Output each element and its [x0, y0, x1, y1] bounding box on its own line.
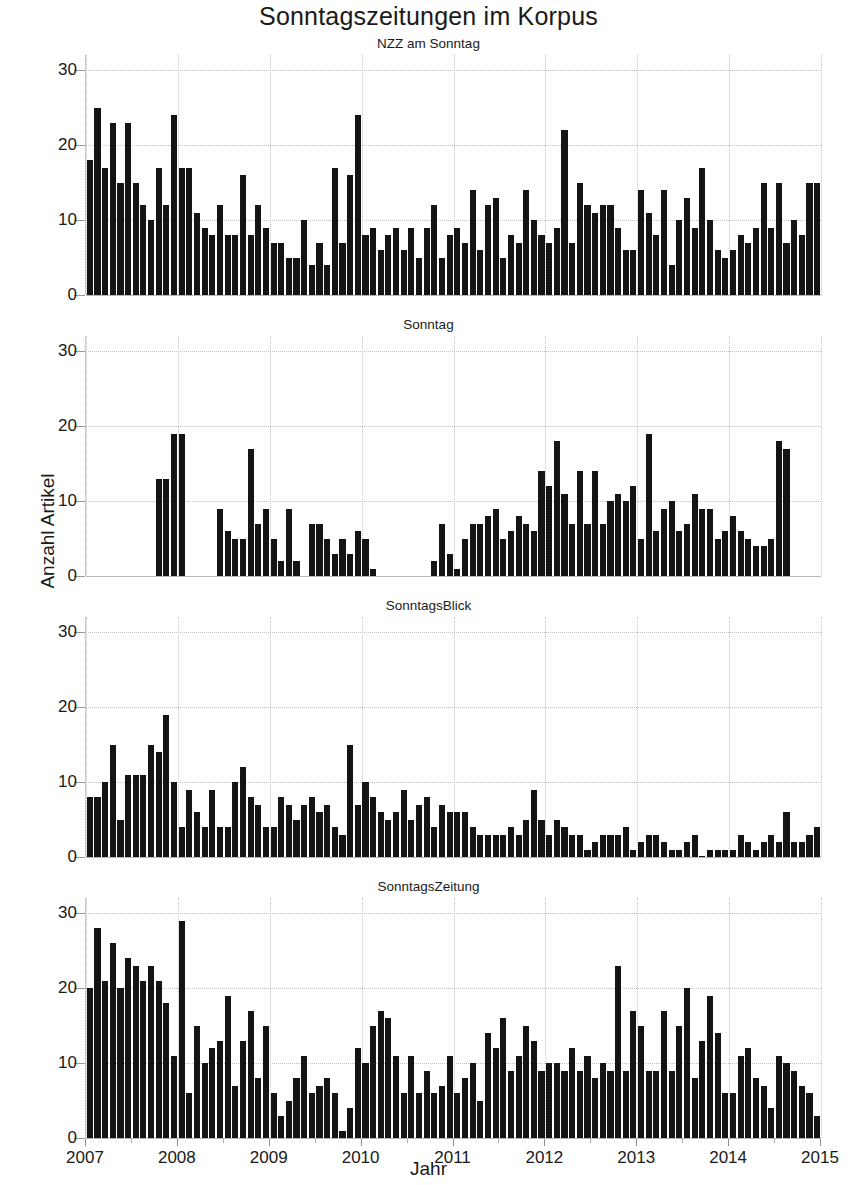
bar [102, 168, 108, 296]
bar [707, 996, 713, 1139]
bar [362, 539, 368, 577]
bar [431, 1093, 437, 1138]
bar [156, 479, 162, 577]
bar [669, 265, 675, 295]
bar [745, 539, 751, 577]
bar [431, 205, 437, 295]
bar [715, 850, 721, 858]
x-tick-minor [774, 1139, 775, 1143]
bar [355, 1048, 361, 1138]
bar [738, 1056, 744, 1139]
bar [324, 805, 330, 858]
bar [485, 516, 491, 576]
bar [316, 812, 322, 857]
bar [202, 1063, 208, 1138]
bar [730, 1093, 736, 1138]
bar [263, 1026, 269, 1139]
bar [646, 1071, 652, 1139]
bar [600, 205, 606, 295]
bar [454, 569, 460, 577]
bar [439, 805, 445, 858]
bar [500, 539, 506, 577]
x-tick-minor [590, 1139, 591, 1143]
bar [761, 1086, 767, 1139]
bar [470, 524, 476, 577]
y-tick-label: 20 [37, 416, 77, 436]
bar [761, 842, 767, 857]
bar [263, 827, 269, 857]
bar [156, 168, 162, 296]
x-tick-mark [544, 1139, 545, 1146]
bar [653, 835, 659, 858]
bar [347, 745, 353, 858]
bar [148, 745, 154, 858]
axis-baseline [86, 576, 821, 577]
bar [638, 190, 644, 295]
x-tick-minor [131, 1139, 132, 1143]
panel-title: SonntagsBlick [0, 598, 857, 613]
bar [125, 958, 131, 1138]
bar [209, 1048, 215, 1138]
bar [240, 767, 246, 857]
bar [615, 494, 621, 577]
bar [814, 183, 820, 296]
bar [271, 243, 277, 296]
bar [309, 265, 315, 295]
bar [347, 175, 353, 295]
y-tick-label: 10 [37, 210, 77, 230]
bar [370, 797, 376, 857]
bar [538, 1071, 544, 1139]
x-tick-mark [85, 1139, 86, 1146]
x-tick-minor [407, 1139, 408, 1143]
bar [783, 243, 789, 296]
bar [538, 471, 544, 576]
bar [171, 434, 177, 577]
bar [286, 1101, 292, 1139]
bar [753, 850, 759, 858]
bar [286, 258, 292, 296]
bar [493, 835, 499, 858]
x-tick-mark [820, 1139, 821, 1146]
bar [385, 235, 391, 295]
bar [240, 175, 246, 295]
bar [607, 1071, 613, 1139]
bar [692, 228, 698, 296]
x-tick-label: 2009 [250, 1148, 288, 1168]
bar [347, 1108, 353, 1138]
bar [140, 981, 146, 1139]
bar [516, 243, 522, 296]
x-tick-label: 2008 [158, 1148, 196, 1168]
bar [271, 827, 277, 857]
x-axis-ticks: 200720082009201020112012201320142015 [85, 1139, 820, 1173]
bar [240, 1041, 246, 1139]
bar [286, 509, 292, 577]
bar [248, 449, 254, 577]
bar [623, 250, 629, 295]
bar [232, 235, 238, 295]
bar [431, 561, 437, 576]
bar [592, 213, 598, 296]
bar [156, 752, 162, 857]
bar [125, 775, 131, 858]
bar [623, 501, 629, 576]
bar [202, 827, 208, 857]
bar [454, 1093, 460, 1138]
bar [133, 775, 139, 858]
bar [630, 850, 636, 858]
bar [738, 531, 744, 576]
bar [531, 790, 537, 858]
bar [232, 539, 238, 577]
bar [684, 988, 690, 1138]
bar [615, 966, 621, 1139]
bar [561, 827, 567, 857]
bar [477, 250, 483, 295]
bar [470, 827, 476, 857]
bar [416, 805, 422, 858]
bar [707, 509, 713, 577]
bar [538, 235, 544, 295]
bar [439, 1086, 445, 1139]
bar [561, 494, 567, 577]
bar [615, 228, 621, 296]
bar [263, 509, 269, 577]
bar [554, 1063, 560, 1138]
